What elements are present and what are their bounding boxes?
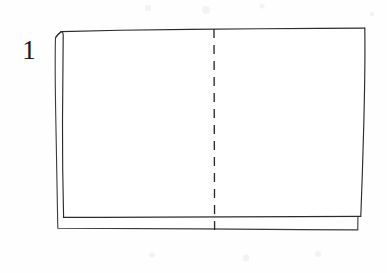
figure-panel: 1 [0, 0, 387, 273]
folded-sheet-diagram [0, 0, 387, 273]
front-sheet [56, 28, 365, 217]
